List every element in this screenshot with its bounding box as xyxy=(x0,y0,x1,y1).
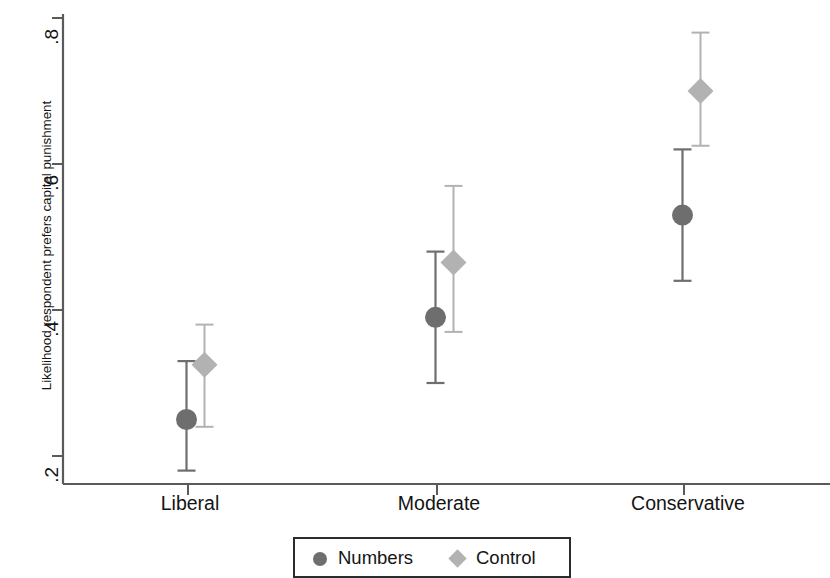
data-point-diamond xyxy=(688,78,714,104)
legend-label: Numbers xyxy=(338,547,413,569)
data-point-circle xyxy=(176,409,197,430)
series-numbers xyxy=(176,149,693,470)
diamond-marker-icon xyxy=(449,549,467,567)
series-control xyxy=(192,33,714,427)
legend-entry-control: Control xyxy=(449,546,536,570)
y-tick-label: .8 xyxy=(41,29,63,63)
y-tick-label: .4 xyxy=(41,321,63,355)
data-point-circle xyxy=(672,205,693,226)
legend-label: Control xyxy=(476,547,536,569)
y-tick-label: .2 xyxy=(41,467,63,501)
circle-marker-icon xyxy=(311,549,329,567)
chart-legend: Numbers Control xyxy=(293,537,571,578)
x-tick-label-conservative: Conservative xyxy=(631,492,745,515)
legend-entry-numbers: Numbers xyxy=(311,546,413,570)
x-tick-label-moderate: Moderate xyxy=(398,492,480,515)
data-point-diamond xyxy=(192,352,218,378)
x-tick-label-liberal: Liberal xyxy=(161,492,220,515)
data-point-circle xyxy=(425,307,446,328)
data-point-diamond xyxy=(441,250,467,276)
y-tick-label: .6 xyxy=(41,175,63,209)
